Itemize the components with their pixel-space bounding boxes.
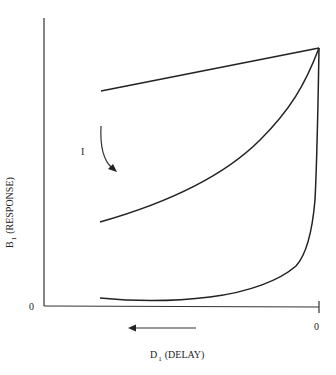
x-axis-label: D1(DELAY) (150, 350, 204, 360)
curve-middle (100, 48, 319, 222)
x-axis-subscript: 1 (158, 355, 162, 363)
y-axis-text: (RESPONSE) (4, 177, 15, 234)
direction-arrow-head (128, 325, 136, 332)
curve-lower (100, 48, 319, 301)
curve-upper (101, 48, 319, 91)
arrow-annotation-label: I (81, 147, 84, 157)
y-axis-subscript: 1 (10, 237, 18, 241)
curved-arrow-shaft (101, 126, 112, 168)
response-delay-diagram (0, 0, 336, 375)
x-axis-symbol: D (150, 349, 157, 360)
y-axis-symbol: B (4, 241, 15, 248)
x-axis-text: (DELAY) (165, 349, 205, 360)
y-origin-tick-label: 0 (29, 302, 34, 312)
y-axis-label: B1(RESPONSE) (5, 177, 15, 248)
x-axis-line (44, 306, 319, 307)
x-origin-tick-label: 0 (314, 322, 319, 332)
